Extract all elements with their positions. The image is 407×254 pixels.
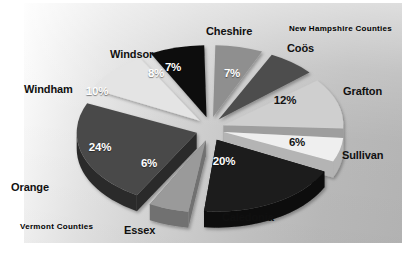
slice-label-coos: Coös [287,42,314,54]
slice-value-windsor: 8% [148,67,164,79]
slice-label-windham: Windham [24,83,73,95]
slice-value-grafton: 12% [274,94,296,106]
slice-label-grafton: Grafton [343,85,382,97]
slice-label-caledonia: Caledonia [222,211,274,223]
annotation-vermont-counties: Vermont Counties [20,222,93,231]
pie-stage: 7% 7% 12% 6% 20% 6% 24% 10% 8% [24,3,402,243]
pie-chart-figure: 7% 7% 12% 6% 20% 6% 24% 10% 8% Cheshire … [0,0,407,254]
slice-value-coos: 7% [224,67,240,79]
slice-value-sullivan: 6% [289,136,305,148]
slice-value-essex: 6% [141,157,157,169]
slice-value-windham: 10% [86,85,108,97]
annotation-new-hampshire-counties: New Hampshire Counties [289,24,392,33]
slice-label-windsor: Windsor [110,48,153,60]
slice-label-sullivan: Sullivan [342,149,383,161]
slice-value-orange: 24% [89,141,111,153]
pie-slices-svg [24,3,402,243]
slice-label-cheshire: Cheshire [206,25,252,37]
slice-label-essex: Essex [124,224,155,236]
slice-value-cheshire: 7% [165,61,181,73]
slice-label-orange: Orange [11,181,49,193]
slice-value-caledonia: 20% [213,155,235,167]
